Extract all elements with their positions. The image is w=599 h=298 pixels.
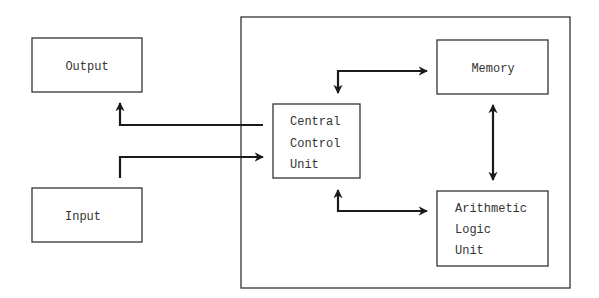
alu-label-line-1: Arithmetic xyxy=(455,202,527,216)
ccu-label-line-1: Central xyxy=(290,115,340,129)
ccu-label-line-3: Unit xyxy=(290,158,319,172)
output-label: Output xyxy=(65,60,108,74)
ccu-node[interactable]: Central Control Unit xyxy=(273,104,360,178)
ccu-label-line-2: Control xyxy=(290,137,340,151)
output-node[interactable]: Output xyxy=(32,38,142,92)
alu-node[interactable]: Arithmetic Logic Unit xyxy=(437,191,548,266)
input-label: Input xyxy=(65,210,101,224)
computer-architecture-diagram: Output Input Central Control Unit Memory… xyxy=(0,0,599,298)
alu-label-line-2: Logic xyxy=(455,223,491,237)
memory-label: Memory xyxy=(471,62,514,76)
arrow-ccu-alu xyxy=(338,190,427,211)
input-node[interactable]: Input xyxy=(32,188,142,242)
memory-node[interactable]: Memory xyxy=(437,40,548,94)
alu-label-line-3: Unit xyxy=(455,244,484,258)
arrow-ccu-memory xyxy=(338,71,427,93)
